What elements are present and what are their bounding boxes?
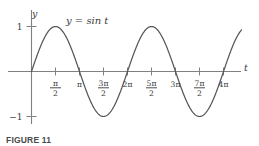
x-axis-tick-labels: π2π3π22π5π23π7π24π — [50, 79, 228, 98]
x-tick-label-2: 3π2 — [98, 79, 109, 98]
x-tick-label-3: 2π — [123, 80, 133, 89]
equation-annotation: y = sin t — [65, 15, 109, 26]
frac-numerator: 7π — [195, 79, 205, 88]
x-tick-label-0: π2 — [50, 79, 61, 98]
sine-plot: π2π3π22π5π23π7π24π 1−1 y t y = sin t — [0, 0, 259, 146]
figure-caption: FIGURE 11 — [6, 135, 51, 146]
frac-numerator: 5π — [147, 79, 157, 88]
y-axis-label: y — [31, 8, 38, 19]
tick-text: 3π — [171, 80, 181, 89]
tick-text: π — [77, 80, 82, 89]
frac-denominator: 2 — [53, 89, 58, 98]
frac-numerator: π — [53, 79, 58, 88]
x-tick-label-1: π — [77, 80, 82, 89]
y-tick-label-1: −1 — [9, 112, 22, 122]
tick-text: 4π — [219, 80, 229, 89]
x-tick-label-6: 7π2 — [194, 79, 205, 98]
frac-denominator: 2 — [101, 89, 106, 98]
x-tick-label-4: 5π2 — [146, 79, 157, 98]
x-axis-label: t — [244, 62, 248, 73]
axes-group — [8, 10, 241, 124]
figure-container: π2π3π22π5π23π7π24π 1−1 y t y = sin t FIG… — [0, 0, 259, 146]
frac-denominator: 2 — [197, 89, 202, 98]
tick-text: 2π — [123, 80, 133, 89]
frac-denominator: 2 — [149, 89, 154, 98]
y-tick-label-0: 1 — [17, 22, 23, 32]
x-tick-label-7: 4π — [219, 80, 229, 89]
frac-numerator: 3π — [99, 79, 109, 88]
x-tick-label-5: 3π — [171, 80, 181, 89]
